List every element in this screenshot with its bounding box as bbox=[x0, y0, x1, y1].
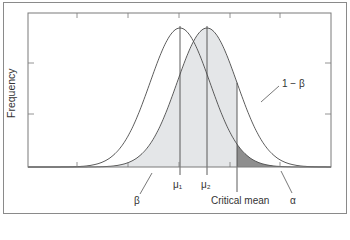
mu2-label: μ₂ bbox=[201, 180, 211, 190]
mu1-label: μ₁ bbox=[173, 180, 182, 190]
beta-region bbox=[28, 28, 237, 167]
power-label: 1 − β bbox=[282, 79, 305, 89]
alpha-label: α bbox=[290, 196, 296, 206]
alpha-region bbox=[237, 144, 331, 167]
beta-label: β bbox=[134, 196, 140, 206]
y-axis-label: Frequency bbox=[6, 68, 17, 118]
critical-mean-label: Critical mean bbox=[211, 196, 269, 206]
